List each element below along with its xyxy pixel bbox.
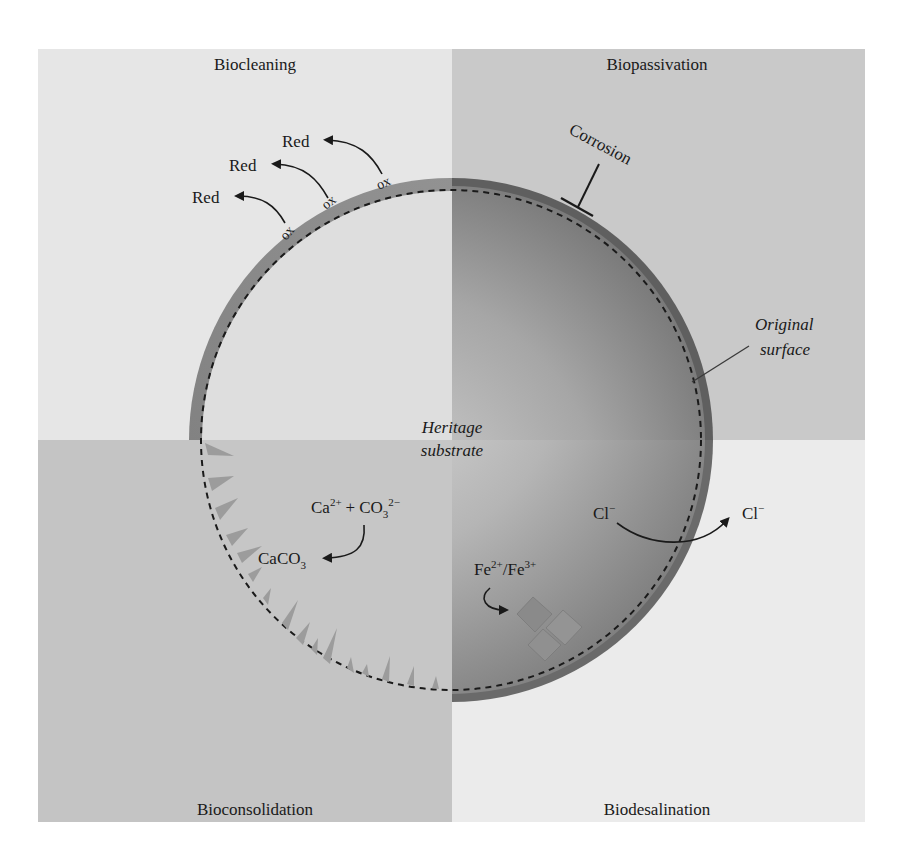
red-label-3: Red bbox=[282, 132, 310, 151]
heritage-biotreatment-diagram: Biocleaning Biopassivation Bioconsolidat… bbox=[0, 0, 906, 856]
red-label-2: Red bbox=[229, 156, 257, 175]
title-biodesalination: Biodesalination bbox=[604, 800, 711, 819]
calcium-carbonate: CaCO3 bbox=[258, 549, 307, 571]
heritage-substrate-label-2: substrate bbox=[421, 441, 484, 460]
original-surface-label-2: surface bbox=[760, 340, 811, 359]
title-biopassivation: Biopassivation bbox=[606, 55, 708, 74]
red-label-1: Red bbox=[192, 188, 220, 207]
title-biocleaning: Biocleaning bbox=[214, 55, 297, 74]
original-surface-label-1: Original bbox=[755, 315, 814, 334]
heritage-substrate-label: Heritage bbox=[421, 418, 483, 437]
title-bioconsolidation: Bioconsolidation bbox=[197, 800, 314, 819]
